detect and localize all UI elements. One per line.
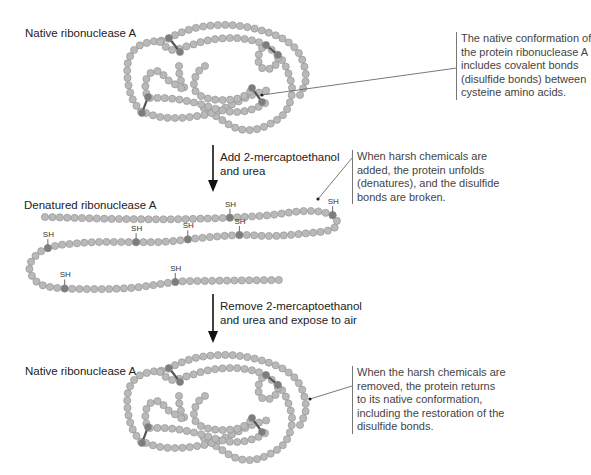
callout-line: (denatures), and the disulfide — [357, 177, 499, 191]
sh-group-label: SH — [131, 224, 142, 233]
callout-line: bonds are broken. — [357, 191, 499, 205]
denatured-protein: SHSHSHSHSHSHSHSH — [26, 197, 341, 292]
callout-line: When harsh chemicals are — [357, 150, 499, 164]
step-line: and urea — [220, 164, 340, 178]
step-line: Add 2-mercaptoethanol — [220, 150, 340, 164]
sh-group-label: SH — [43, 230, 54, 239]
callout-line: the protein ribonuclease A — [461, 46, 591, 60]
panel-title-native-top: Native ribonuclease A — [25, 27, 136, 39]
sh-group-label: SH — [170, 264, 181, 273]
callout-line: including the restoration of the — [357, 407, 506, 421]
callout-line: When the harsh chemicals are — [357, 366, 506, 380]
step-remove-chemicals: Remove 2-mercaptoethanol and urea and ex… — [220, 299, 362, 327]
step-line: and urea and expose to air — [220, 313, 362, 327]
step-add-chemicals: Add 2-mercaptoethanol and urea — [220, 150, 340, 178]
callout-leader-bottom — [308, 386, 352, 401]
step-line: Remove 2-mercaptoethanol — [220, 299, 362, 313]
callout-native-bottom: When the harsh chemicals are removed, th… — [352, 366, 506, 434]
callout-line: removed, the protein returns — [357, 380, 506, 394]
sh-group-label: SH — [225, 200, 236, 209]
callout-line: The native conformation of — [461, 32, 591, 46]
sh-group-label: SH — [328, 197, 339, 206]
callout-line: to its native conformation, — [357, 393, 506, 407]
arrow-down-icon — [208, 294, 218, 343]
native-protein-top — [124, 21, 310, 133]
callout-native-top: The native conformation of the protein r… — [456, 32, 461, 100]
callout-denatured: When harsh chemicals are added, the prot… — [352, 150, 499, 204]
callout-line: added, the protein unfolds — [357, 164, 499, 178]
native-protein-bottom — [124, 351, 310, 463]
callout-line: (disulfide bonds) between — [461, 73, 591, 87]
arrow-down-icon — [208, 145, 218, 192]
callout-line: includes covalent bonds — [461, 59, 591, 73]
sh-group-label: SH — [234, 217, 245, 226]
panel-title-native-bottom: Native ribonuclease A — [25, 365, 136, 377]
sh-group-label: SH — [183, 221, 194, 230]
callout-line: disulfide bonds. — [357, 420, 506, 434]
sh-group-label: SH — [60, 270, 71, 279]
panel-title-denatured: Denatured ribonuclease A — [24, 199, 156, 211]
callout-line: cysteine amino acids. — [461, 86, 591, 100]
